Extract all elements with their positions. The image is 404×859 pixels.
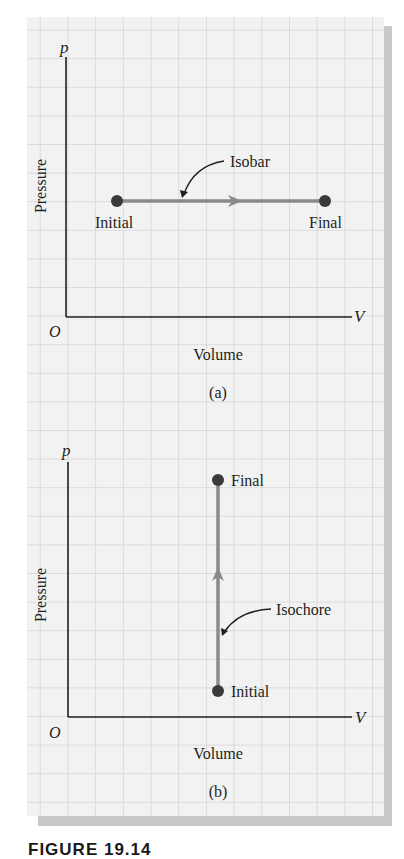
figure-caption: FIGURE 19.14 xyxy=(28,840,152,859)
isobar-label: Isobar xyxy=(230,153,271,170)
x-axis-title-a: Volume xyxy=(193,346,242,363)
final-point-b xyxy=(212,474,224,486)
origin-label-a: O xyxy=(49,323,61,340)
isochore-label: Isochore xyxy=(276,601,331,618)
final-label-b: Final xyxy=(231,472,264,489)
panel-label-a: (a) xyxy=(209,384,227,402)
initial-label-a: Initial xyxy=(95,214,134,231)
final-point-a xyxy=(319,195,331,207)
x-axis-title-b: Volume xyxy=(193,745,242,762)
initial-point-b xyxy=(212,685,224,697)
panel-label-b: (b) xyxy=(209,783,228,801)
y-axis-title-a: Pressure xyxy=(32,159,49,213)
y-axis-title-b: Pressure xyxy=(32,568,49,622)
origin-label-b: O xyxy=(49,724,61,741)
grid-lines xyxy=(27,17,384,816)
p-symbol-b: p xyxy=(61,441,71,460)
initial-point-a xyxy=(111,195,123,207)
initial-label-b: Initial xyxy=(231,683,270,700)
p-symbol-a: p xyxy=(59,38,69,57)
final-label-a: Final xyxy=(309,214,342,231)
